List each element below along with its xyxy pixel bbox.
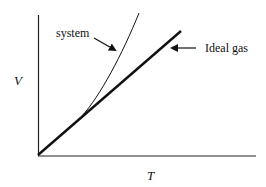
system-curve (82, 13, 139, 116)
system-label: system (56, 26, 90, 40)
ideal-gas-label: Ideal gas (205, 41, 248, 55)
system-arrow (94, 38, 115, 50)
ideal-gas-line (38, 31, 181, 155)
v-vs-t-diagram: system Ideal gas V T (0, 0, 266, 187)
y-axis-label: V (14, 73, 24, 88)
x-axis-label: T (147, 168, 155, 183)
